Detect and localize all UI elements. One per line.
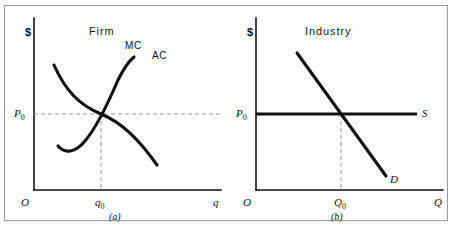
firm-price-letter: P [14,107,21,119]
firm-quantity-subscript: 0 [101,202,105,211]
industry-supply-label: S [422,108,428,119]
industry-panel-title: Industry [305,26,351,37]
panel-firm: $ Firm MC AC P0 O q0 q (a) [5,6,227,222]
industry-demand-label: D [390,174,398,185]
industry-x-axis-label: Q [434,197,442,208]
panel-industry: $ Industry S D P0 O Q0 Q (b) [227,6,449,222]
firm-quantity-tick-label: q0 [95,197,105,211]
industry-price-label: P0 [236,108,247,122]
firm-mc-curve [58,57,134,151]
firm-panel-caption: (a) [109,212,121,222]
industry-quantity-letter: Q [334,196,342,208]
industry-panel-caption: (b) [331,212,343,222]
industry-plot-area [227,6,449,222]
figure-frame: $ Firm MC AC P0 O q0 q (a) [4,5,448,221]
industry-quantity-tick-label: Q0 [334,197,346,211]
firm-origin-label: O [21,197,29,208]
firm-plot-area [5,6,227,222]
industry-price-subscript: 0 [243,113,247,122]
firm-ac-label: AC [152,51,167,61]
industry-origin-label: O [243,197,251,208]
figure-root: $ Firm MC AC P0 O q0 q (a) [0,0,453,237]
firm-price-label: P0 [14,108,25,122]
industry-y-axis-unit: $ [247,27,253,38]
firm-panel-title: Firm [89,26,115,37]
industry-quantity-subscript: 0 [342,202,346,211]
firm-y-axis-unit: $ [25,27,31,38]
firm-x-axis-label: q [213,197,219,208]
firm-mc-label: MC [125,41,142,51]
firm-price-subscript: 0 [21,113,25,122]
industry-price-letter: P [236,107,243,119]
